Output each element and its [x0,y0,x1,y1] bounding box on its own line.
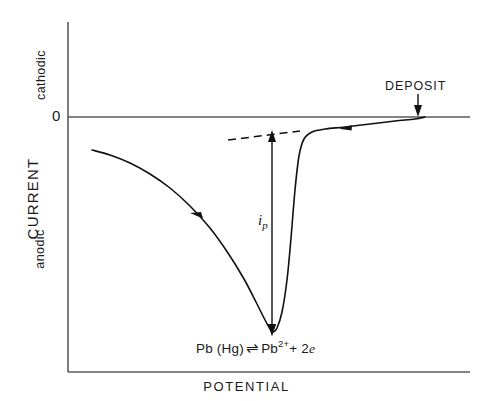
scan-arrowhead-left-branch [190,212,203,219]
peak-current-arrow [268,130,276,336]
y-axis-anodic-label: anodic [33,215,47,283]
x-axis-title: POTENTIAL [0,379,493,394]
y-axis-zero-tick-label: 0 [52,107,60,124]
deposit-arrow [414,94,422,117]
reaction-pointer-arrowhead [268,324,276,336]
peak-current-arrowhead-top [268,130,276,142]
axes-group [68,22,470,372]
y-axis-cathodic-label: cathodic [34,38,48,112]
peak-current-label: ip [258,212,268,231]
reaction-pointer-arrow [268,324,276,336]
reaction-reactant: Pb (Hg) [196,341,244,356]
peak-current-subscript: p [262,219,268,231]
reaction-product-species: Pb [261,341,278,356]
baseline-dashed-line [228,131,300,140]
reaction-product-charge: 2+ [278,338,289,349]
voltammogram-figure: CURRENT cathodic anodic 0 POTENTIAL DEPO… [0,0,493,401]
deposit-arrowhead [414,105,422,117]
electrode-reaction-label: Pb (Hg)⇌Pb2++ 2e [196,338,315,357]
deposit-annotation-label: DEPOSIT [385,79,446,93]
reaction-product-tail: + 2 [289,341,309,356]
equilibrium-arrow-symbol: ⇌ [244,339,261,356]
reaction-electron-symbol: e [309,341,315,356]
